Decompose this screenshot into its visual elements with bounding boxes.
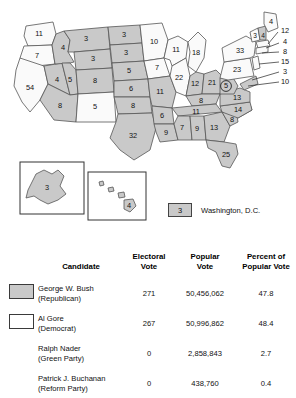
th-swatch (6, 252, 36, 279)
th-electoral-vote: Electoral Vote (126, 252, 172, 279)
election-results-table: Candidate Electoral Vote Popular Vote Pe… (6, 252, 294, 398)
label-DE: 3 (283, 67, 287, 76)
candidate-name: George W. Bush (38, 284, 94, 293)
popular-value: 438,760 (172, 369, 238, 398)
candidate-name: Patrick J. Buchanan (38, 374, 106, 383)
candidate-cell: George W. Bush (Republican) (36, 279, 126, 309)
label-IN: 12 (191, 79, 199, 88)
state-NJ (252, 56, 260, 70)
label-MN: 10 (150, 37, 158, 46)
label-VA: 13 (233, 93, 241, 102)
label-KS: 6 (129, 84, 133, 93)
th-percent-line2: Popular Vote (242, 262, 290, 271)
th-popular-vote: Popular Vote (172, 252, 238, 279)
label-ND: 3 (122, 30, 126, 39)
label-AL: 9 (195, 124, 199, 133)
candidate-party: (Reform Party) (38, 384, 126, 394)
row-swatch-cell (6, 279, 36, 309)
label-NE: 5 (127, 66, 131, 75)
label-FL: 25 (222, 150, 230, 159)
island-oahu (108, 187, 114, 192)
label-IA: 7 (155, 63, 159, 72)
row-swatch-cell (6, 339, 36, 369)
dc-swatch: 3 (168, 203, 192, 217)
electoral-value: 0 (126, 339, 172, 369)
table-row: Ralph Nader (Green Party) 0 2,858,843 2.… (6, 339, 294, 369)
label-MS: 7 (180, 123, 184, 132)
candidate-name: Al Gore (38, 314, 64, 323)
label-WI: 11 (172, 45, 180, 54)
label-IL: 22 (175, 73, 183, 82)
row-swatch-cell (6, 309, 36, 339)
table-row: Al Gore (Democrat) 267 50,996,862 48.4 (6, 309, 294, 339)
legend-swatch-gore (9, 314, 34, 329)
candidate-name: Ralph Nader (38, 344, 81, 353)
candidate-party: (Green Party) (38, 354, 126, 364)
results-table-wrap: Candidate Electoral Vote Popular Vote Pe… (0, 252, 296, 398)
label-TX: 32 (129, 131, 137, 140)
label-AK: 3 (45, 183, 49, 192)
legend-swatch-bush (9, 284, 34, 299)
label-LA: 9 (164, 128, 168, 137)
label-MI: 18 (192, 48, 200, 57)
island-maui (118, 192, 125, 198)
label-OR: 7 (35, 51, 39, 60)
candidate-cell: Patrick J. Buchanan (Reform Party) (36, 369, 126, 398)
label-MD: 10 (281, 77, 289, 86)
table-row: Patrick J. Buchanan (Reform Party) 0 438… (6, 369, 294, 398)
dc-legend: 3 Washington, D.C. (168, 203, 260, 217)
label-AZ: 8 (58, 101, 62, 110)
candidate-cell: Al Gore (Democrat) (36, 309, 126, 339)
th-percent-line1: Percent of (247, 252, 285, 261)
table-body: George W. Bush (Republican) 271 50,456,0… (6, 279, 294, 398)
candidate-cell: Ralph Nader (Green Party) (36, 339, 126, 369)
election-map-figure: 11 7 54 4 4 3 3 5 8 8 5 3 3 5 6 8 32 10 … (0, 0, 296, 398)
label-CO: 8 (93, 76, 97, 85)
electoral-value: 267 (126, 309, 172, 339)
label-UT: 5 (68, 75, 72, 84)
label-NM: 5 (93, 102, 97, 111)
dc-legend-label: Washington, D.C. (201, 206, 260, 215)
electoral-value: 271 (126, 279, 172, 309)
popular-value: 50,996,862 (172, 309, 238, 339)
candidate-party: (Democrat) (38, 324, 126, 334)
th-percent: Percent of Popular Vote (238, 252, 294, 279)
label-AR: 6 (160, 111, 164, 120)
candidate-party: (Republican) (38, 294, 126, 304)
th-electoral-line2: Vote (141, 262, 157, 271)
label-OH: 21 (208, 78, 216, 87)
percent-value: 0.4 (238, 369, 294, 398)
popular-value: 2,858,843 (172, 339, 238, 369)
th-electoral-line1: Electoral (133, 252, 166, 261)
label-ME: 4 (269, 17, 273, 26)
label-WV: 5 (224, 81, 228, 90)
label-WY: 3 (91, 54, 95, 63)
th-popular-line2: Vote (197, 262, 213, 271)
th-popular-line1: Popular (190, 252, 219, 261)
label-OK: 8 (131, 101, 135, 110)
label-PA: 23 (233, 65, 241, 74)
label-TN: 11 (192, 107, 200, 116)
label-NV: 4 (55, 75, 59, 84)
table-header-row: Candidate Electoral Vote Popular Vote Pe… (6, 252, 294, 279)
label-SC: 8 (230, 115, 234, 124)
row-swatch-cell (6, 369, 36, 398)
label-SD: 3 (124, 48, 128, 57)
label-WA: 11 (35, 29, 43, 38)
island-kauai (99, 181, 104, 186)
hawaii-inset-box (88, 172, 146, 220)
percent-value: 47.8 (238, 279, 294, 309)
label-MA: 12 (281, 26, 289, 35)
label-VT: 3 (253, 32, 257, 39)
percent-value: 48.4 (238, 309, 294, 339)
electoral-value: 0 (126, 369, 172, 398)
popular-value: 50,456,062 (172, 279, 238, 309)
percent-value: 2.7 (238, 339, 294, 369)
label-GA: 13 (210, 123, 218, 132)
label-CA: 54 (26, 83, 34, 92)
label-NJ: 15 (281, 57, 289, 66)
label-HI: 4 (127, 201, 131, 210)
leader-MA (268, 32, 278, 44)
table-row: George W. Bush (Republican) 271 50,456,0… (6, 279, 294, 309)
label-NY: 33 (236, 46, 244, 55)
